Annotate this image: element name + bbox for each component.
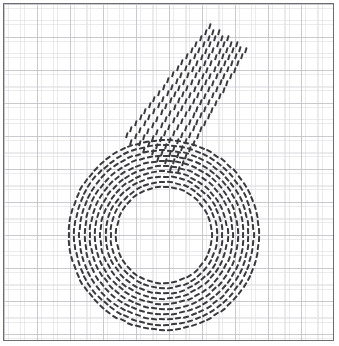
glyph-dash: [199, 320, 205, 324]
glyph-dash: [79, 279, 84, 285]
glyph-dash: [87, 271, 92, 277]
glyph-dash: [207, 113, 211, 119]
glyph-dash: [180, 132, 184, 138]
glyph-dash: [99, 304, 105, 309]
glyph-dash: [99, 160, 105, 165]
glyph-dash: [194, 184, 200, 189]
glyph-dash: [223, 263, 228, 269]
glyph-dash: [102, 197, 107, 203]
glyph-dash: [238, 279, 243, 285]
glyph-dash: [68, 224, 71, 230]
glyph-dash: [147, 322, 153, 325]
glyph-dash: [197, 79, 201, 85]
glyph-dash: [106, 201, 111, 207]
glyph-dash: [112, 151, 118, 156]
glyph-dash: [238, 196, 242, 202]
glyph-dash: [229, 73, 233, 79]
glyph-dash: [147, 301, 153, 304]
glyph-dash: [147, 155, 153, 158]
glyph-dash: [135, 302, 141, 306]
glyph-dash: [163, 282, 169, 284]
glyph-dash: [207, 216, 211, 222]
glyph-dash: [159, 329, 165, 331]
glyph-dash: [202, 266, 207, 272]
glyph-dash: [225, 220, 228, 226]
glyph-dash: [98, 271, 103, 277]
glyph-dash: [135, 291, 141, 295]
glyph-dash: [151, 150, 157, 153]
glyph-dash: [242, 240, 245, 246]
figure-root: [0, 0, 339, 346]
glyph-dash: [198, 297, 204, 302]
glyph-dash: [114, 255, 119, 261]
glyph-dash: [180, 59, 184, 65]
glyph-dash: [237, 289, 242, 295]
glyph-dash: [111, 216, 115, 222]
glyph-dash: [75, 192, 79, 198]
glyph-dash: [103, 301, 109, 306]
glyph-dash: [135, 186, 141, 191]
glyph-dash: [102, 267, 107, 273]
glyph-dash: [147, 128, 151, 134]
glyph-dash: [220, 224, 223, 230]
glyph-dash: [96, 212, 100, 218]
glyph-dash: [95, 274, 100, 280]
glyph-dash: [227, 267, 232, 273]
glyph-dash: [138, 127, 142, 133]
glyph-dash: [114, 208, 119, 214]
glyph-dash: [219, 79, 223, 85]
glyph-dash: [110, 171, 116, 176]
glyph-dash: [227, 208, 231, 214]
glyph-dash: [214, 244, 217, 250]
glyph-dash: [242, 271, 247, 277]
glyph-dash: [143, 172, 149, 176]
glyph-dash: [175, 295, 181, 298]
glyph-dash: [225, 176, 231, 182]
glyph-dash: [104, 287, 110, 293]
glyph-dash: [200, 85, 204, 91]
glyph-dash: [211, 80, 215, 86]
glyph-dash: [85, 212, 89, 218]
glyph-dash: [143, 120, 147, 126]
glyph-dash: [237, 228, 239, 234]
glyph-dash: [249, 256, 253, 262]
glyph-dash: [229, 248, 232, 254]
glyph-dash: [219, 170, 225, 176]
glyph-dash: [160, 110, 164, 116]
glyph-dash: [89, 240, 92, 246]
glyph-dash: [194, 172, 200, 177]
glyph-dash: [151, 307, 157, 310]
glyph-dash: [143, 151, 149, 154]
glyph-dash: [175, 285, 181, 289]
glyph-dash: [220, 307, 226, 312]
glyph-dash: [187, 319, 193, 323]
glyph-dash: [257, 220, 260, 226]
glyph-dash: [135, 175, 141, 179]
glyph-dash: [200, 189, 206, 195]
glyph-dash: [244, 47, 248, 53]
glyph-dash: [171, 302, 177, 305]
glyph-dash: [220, 240, 223, 246]
glyph-dash: [196, 106, 200, 112]
glyph-dash: [68, 240, 71, 246]
glyph-dash: [196, 133, 200, 139]
glyph-dash: [127, 265, 133, 271]
glyph-dash: [143, 161, 149, 165]
glyph-dash: [207, 53, 211, 59]
glyph-dash: [234, 285, 239, 291]
glyph-dash: [87, 282, 92, 288]
glyph-dash: [194, 161, 200, 165]
glyph-dash: [79, 185, 84, 191]
glyph-dash: [219, 259, 223, 265]
glyph-dash: [233, 67, 237, 73]
glyph-dash: [167, 170, 173, 173]
glyph-dash: [228, 172, 234, 178]
glyph-dash: [124, 291, 130, 296]
glyph-dash: [250, 196, 254, 202]
glyph-dash: [139, 320, 145, 324]
glyph-dash: [226, 163, 232, 169]
glyph-dash: [183, 326, 189, 329]
glyph-dash: [192, 125, 196, 131]
glyph-dash: [222, 252, 226, 258]
glyph-dash: [186, 192, 192, 197]
